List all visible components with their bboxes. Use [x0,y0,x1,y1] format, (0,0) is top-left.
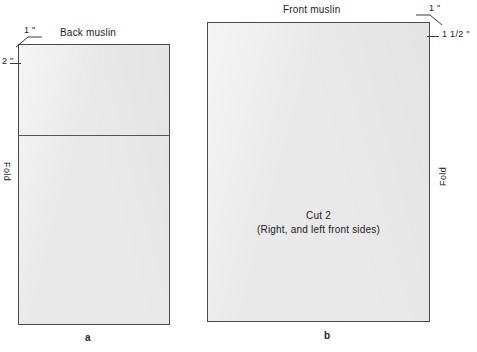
figure-caption-b: b [324,330,330,341]
back-muslin-title: Back muslin [60,27,116,38]
back-muslin-dimension-1in: 1 " [24,25,36,35]
back-muslin-fold-label: Fold [2,162,12,181]
front-muslin-corner-notch-icon [414,12,444,26]
front-muslin-fold-label: Fold [438,167,448,186]
back-muslin-horizontal-divider [18,135,170,136]
front-muslin-cut-detail: (Right, and left front sides) [207,223,430,237]
front-muslin-instructions: Cut 2 (Right, and left front sides) [207,209,430,237]
front-muslin-dimension-1in: 1 " [429,3,441,13]
front-muslin-cut-count: Cut 2 [306,210,331,221]
front-muslin-side-allowance-tick [427,36,439,37]
figure-caption-a: a [85,332,91,343]
pattern-diagram: Back muslin 1 " 2 " Fold a Front muslin … [0,0,477,352]
back-muslin-corner-notch-icon [14,34,44,48]
pattern-piece-back-muslin [18,44,170,325]
back-muslin-dimension-2in: 2 " [2,56,14,66]
front-muslin-dimension-1-5in: 1 1/2 " [442,29,470,39]
front-muslin-title: Front muslin [283,4,340,15]
pattern-piece-front-muslin [207,22,430,322]
